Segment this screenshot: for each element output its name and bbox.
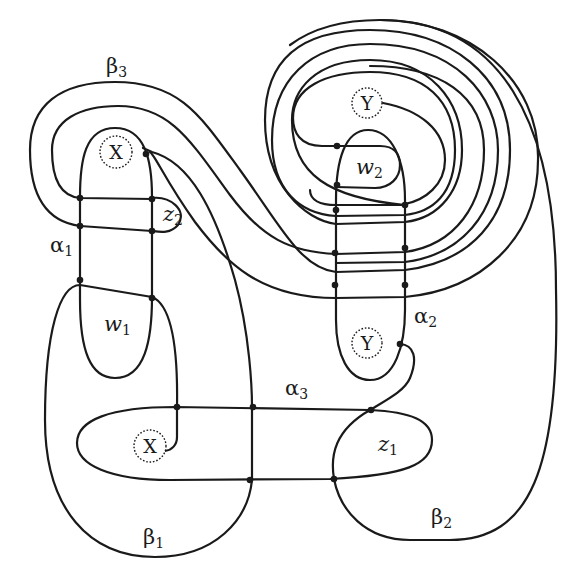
label-w1: w1	[104, 312, 131, 338]
svg-text:X: X	[143, 435, 157, 457]
basepoint-y-bottom: Y	[352, 328, 382, 358]
svg-text:Y: Y	[360, 332, 374, 354]
basepoint-x-top: X	[100, 136, 132, 168]
basepoint-y-top: Y	[352, 88, 382, 118]
label-z2: z2	[162, 202, 183, 228]
label-beta2: β2	[431, 505, 452, 531]
label-alpha3: α3	[285, 376, 308, 402]
label-w2: w2	[356, 155, 383, 181]
label-beta3: β3	[106, 54, 127, 80]
svg-text:X: X	[109, 141, 123, 163]
y-top-arm	[383, 103, 445, 204]
basepoint-x-bottom: X	[134, 430, 166, 462]
label-z1: z1	[377, 432, 398, 458]
svg-text:Y: Y	[360, 92, 374, 114]
beta1-curve	[45, 148, 252, 557]
spiral-inner-left	[272, 44, 498, 263]
label-beta1: β1	[143, 525, 164, 551]
label-alpha2: α2	[414, 304, 437, 330]
label-alpha1: α1	[50, 233, 73, 259]
heegaard-diagram: X X Y Y β3 α1 α2 α3 β1 β2 w1 w2 z1 z2	[0, 0, 576, 584]
